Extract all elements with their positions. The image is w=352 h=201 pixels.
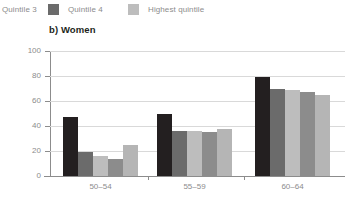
- legend-item: Quintile 4: [48, 0, 103, 18]
- plot-area: [50, 51, 345, 176]
- bar-group: [255, 51, 330, 176]
- y-tick-label: 80: [17, 71, 41, 80]
- bar: [78, 152, 93, 176]
- bar-group: [157, 51, 232, 176]
- bar: [187, 131, 202, 176]
- bar: [157, 114, 172, 177]
- legend-label: Quintile 3: [2, 5, 37, 14]
- x-axis-line: [44, 176, 345, 177]
- bar: [300, 92, 315, 176]
- bar: [315, 95, 330, 176]
- y-tick-label: 0: [17, 171, 41, 180]
- x-tick-label: 55–59: [165, 182, 225, 191]
- y-tick-label: 100: [17, 46, 41, 55]
- x-tick-label: 60–64: [263, 182, 323, 191]
- y-tick-label: 20: [17, 146, 41, 155]
- x-tick-mark: [148, 176, 149, 180]
- legend-item: Highest quintile: [128, 0, 204, 18]
- y-tick-label: 40: [17, 121, 41, 130]
- bar: [217, 129, 232, 177]
- bar: [285, 90, 300, 176]
- chart-legend: Quintile 3Quintile 4Highest quintile: [0, 0, 352, 18]
- legend-swatch: [48, 4, 59, 15]
- legend-label: Highest quintile: [148, 5, 204, 14]
- x-tick-mark: [244, 176, 245, 180]
- bar: [93, 156, 108, 176]
- y-tick-mark: [45, 176, 50, 177]
- bar: [172, 131, 187, 176]
- x-tick-label: 50–54: [71, 182, 131, 191]
- bar-group: [63, 51, 138, 176]
- legend-item: Quintile 3: [2, 0, 37, 18]
- bar: [270, 89, 285, 177]
- bar: [202, 132, 217, 176]
- bar: [108, 159, 123, 177]
- bar: [255, 77, 270, 176]
- bar: [123, 145, 138, 176]
- y-tick-label: 60: [17, 96, 41, 105]
- bar: [63, 117, 78, 176]
- legend-swatch: [128, 4, 139, 15]
- chart-title: b) Women: [49, 24, 96, 35]
- legend-label: Quintile 4: [68, 5, 103, 14]
